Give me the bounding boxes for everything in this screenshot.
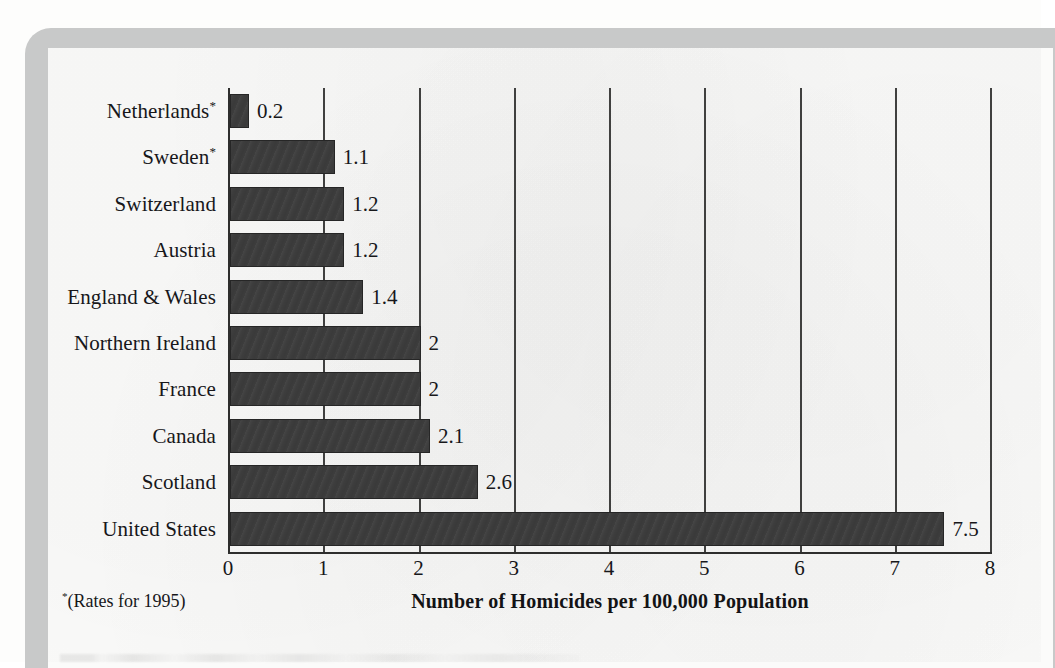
bar-row: Canada2.1 xyxy=(0,413,1041,459)
bar-row: Switzerland1.2 xyxy=(0,181,1041,227)
category-label: Austria xyxy=(0,238,216,263)
bar-row: United States7.5 xyxy=(0,506,1041,552)
tick-label-1: 1 xyxy=(303,556,343,581)
tick-label-4: 4 xyxy=(589,556,629,581)
bar-row: Netherlands*0.2 xyxy=(0,88,1041,134)
tick-label-2: 2 xyxy=(399,556,439,581)
bar xyxy=(230,465,478,499)
category-label: Scotland xyxy=(0,470,216,495)
footnote-asterisk-icon: * xyxy=(209,144,216,159)
bar xyxy=(230,326,421,360)
bar xyxy=(230,512,944,546)
bar xyxy=(230,233,344,267)
footnote-text: (Rates for 1995) xyxy=(68,591,186,611)
bar-value-label: 0.2 xyxy=(257,99,283,124)
bar xyxy=(230,140,335,174)
bar-row: England & Wales1.4 xyxy=(0,274,1041,320)
bar-row: Austria1.2 xyxy=(0,227,1041,273)
footnote-asterisk-icon: * xyxy=(209,98,216,113)
tick-label-8: 8 xyxy=(970,556,1010,581)
bar xyxy=(230,94,249,128)
category-label: Netherlands* xyxy=(0,99,216,124)
bar-row: France2 xyxy=(0,366,1041,412)
bar-value-label: 2.6 xyxy=(486,470,512,495)
category-label: United States xyxy=(0,516,216,541)
x-axis-title: Number of Homicides per 100,000 Populati… xyxy=(228,590,992,613)
category-label: England & Wales xyxy=(0,284,216,309)
bar-value-label: 1.2 xyxy=(352,191,378,216)
tick-label-5: 5 xyxy=(684,556,724,581)
bar-value-label: 1.2 xyxy=(352,238,378,263)
bar xyxy=(230,372,421,406)
bar-value-label: 2 xyxy=(429,377,440,402)
category-label: France xyxy=(0,377,216,402)
bar-row: Sweden*1.1 xyxy=(0,134,1041,180)
category-label: Northern Ireland xyxy=(0,331,216,356)
bar-row: Northern Ireland2 xyxy=(0,320,1041,366)
bar-value-label: 2.1 xyxy=(438,423,464,448)
bar-value-label: 1.4 xyxy=(371,284,397,309)
tick-label-3: 3 xyxy=(494,556,534,581)
x-axis-baseline xyxy=(228,552,992,554)
bar-row: Scotland2.6 xyxy=(0,459,1041,505)
bar xyxy=(230,419,430,453)
tick-label-6: 6 xyxy=(780,556,820,581)
tick-label-7: 7 xyxy=(875,556,915,581)
bar-value-label: 7.5 xyxy=(952,516,978,541)
bar-value-label: 1.1 xyxy=(343,145,369,170)
category-label: Switzerland xyxy=(0,191,216,216)
category-label: Canada xyxy=(0,423,216,448)
bar-value-label: 2 xyxy=(429,331,440,356)
cut-off-body-text xyxy=(60,654,580,662)
category-label: Sweden* xyxy=(0,145,216,170)
bar xyxy=(230,280,363,314)
tick-label-0: 0 xyxy=(208,556,248,581)
footnote: *(Rates for 1995) xyxy=(62,591,186,612)
bar xyxy=(230,187,344,221)
